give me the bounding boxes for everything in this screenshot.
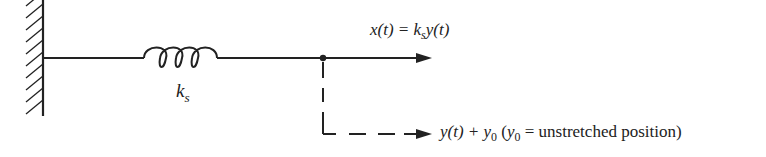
output-equation: x(t) = ksy(t) xyxy=(370,20,449,40)
output-arrowhead xyxy=(416,53,432,63)
spring-coil xyxy=(144,48,217,68)
position-arrowhead xyxy=(416,129,432,139)
wall xyxy=(26,0,43,116)
position-label: y(t) + y0 (y0 = unstretched position) xyxy=(440,122,682,142)
dashed-path xyxy=(323,62,420,134)
spring-constant-label: ks xyxy=(176,80,190,102)
junction-node xyxy=(320,55,326,61)
